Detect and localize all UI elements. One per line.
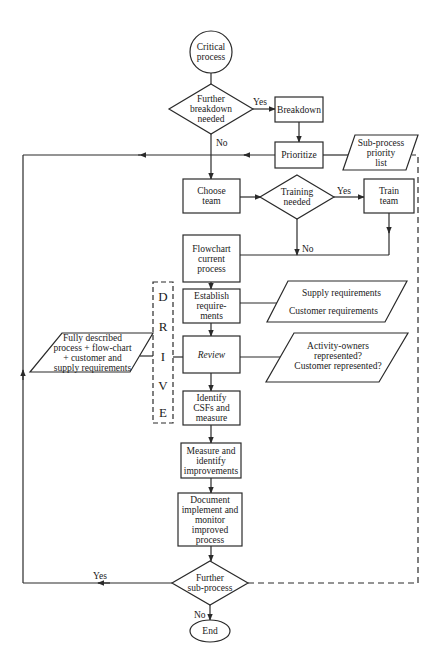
- customer-requirements-label: Customer requirements: [289, 306, 378, 316]
- breakdown-label: Breakdown: [275, 97, 323, 122]
- edge-label-breakdown-no: No: [216, 138, 228, 148]
- train-team-label: Train team: [364, 179, 414, 213]
- drive-letter-d: D: [153, 289, 173, 305]
- edge-label-subprocess-yes: Yes: [93, 571, 107, 581]
- document-label: Document implement and monitor improved …: [178, 493, 242, 546]
- end-label: End: [190, 620, 230, 642]
- drive-letter-i: I: [153, 349, 173, 365]
- identify-csfs-label: Identify CSFs and measure: [183, 391, 240, 425]
- drive-letter-e: E: [153, 405, 173, 421]
- choose-team-label: Choose team: [183, 179, 240, 213]
- further-breakdown-label: Further breakdown needed: [180, 94, 242, 124]
- measure-identify-label: Measure and identify improvements: [181, 443, 241, 478]
- prioritize-label: Prioritize: [275, 142, 323, 168]
- edge-label-training-yes: Yes: [337, 186, 351, 196]
- drive-letter-r: R: [153, 319, 173, 335]
- flowchart-current-label: Flowchart current process: [183, 235, 240, 282]
- further-subprocess-label: Further sub-process: [180, 572, 240, 594]
- drive-letter-v: V: [153, 378, 173, 394]
- start-label: Critical process: [190, 38, 232, 66]
- edge-label-subprocess-no: No: [194, 610, 206, 620]
- supply-requirements-label: Supply requirements: [302, 288, 381, 298]
- establish-req-label: Establish require- ments: [183, 289, 240, 323]
- review-label: Review: [183, 336, 240, 373]
- edge-label-breakdown-yes: Yes: [253, 97, 267, 107]
- fully-described-label: Fully described process + flow-chart + c…: [40, 335, 145, 371]
- subprocess-list-label: Sub-process priority list: [350, 137, 412, 168]
- edge-label-training-no: No: [302, 244, 314, 254]
- training-needed-label: Training needed: [265, 185, 329, 209]
- activity-owners-label: Activity-owners represented? Customer re…: [280, 340, 396, 372]
